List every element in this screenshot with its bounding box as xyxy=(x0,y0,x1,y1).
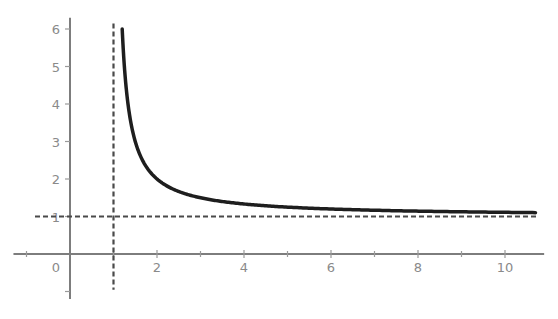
chart-canvas: 0246810123456 xyxy=(0,0,558,319)
curve-curve xyxy=(122,29,535,213)
x-tick-label: 8 xyxy=(414,260,422,275)
asymptote-lines xyxy=(35,23,538,289)
y-tick-label: 4 xyxy=(52,97,60,112)
tick-labels: 0246810123456 xyxy=(52,22,514,275)
y-tick-label: 3 xyxy=(52,135,60,150)
x-tick-label: 0 xyxy=(52,260,60,275)
x-tick-label: 6 xyxy=(327,260,335,275)
data-series xyxy=(122,29,535,213)
axes xyxy=(13,18,544,299)
axis-ticks xyxy=(27,29,506,292)
y-tick-label: 5 xyxy=(52,60,60,75)
x-tick-label: 4 xyxy=(240,260,248,275)
y-tick-label: 2 xyxy=(52,172,60,187)
x-tick-label: 10 xyxy=(497,260,514,275)
y-tick-label: 6 xyxy=(52,22,60,37)
x-tick-label: 2 xyxy=(153,260,161,275)
